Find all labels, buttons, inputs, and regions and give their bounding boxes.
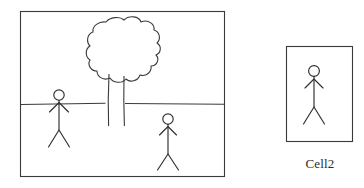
figure-head xyxy=(163,114,173,124)
sketch-canvas: Cell2 xyxy=(0,0,364,188)
figure-head xyxy=(54,90,64,100)
cell2-panel-frame xyxy=(287,47,353,142)
cell2-caption: Cell2 xyxy=(286,156,354,172)
cell2-panel[interactable] xyxy=(287,47,353,142)
tree-canopy xyxy=(86,17,160,82)
figure-head xyxy=(309,66,320,77)
scene-panel[interactable] xyxy=(21,12,225,177)
